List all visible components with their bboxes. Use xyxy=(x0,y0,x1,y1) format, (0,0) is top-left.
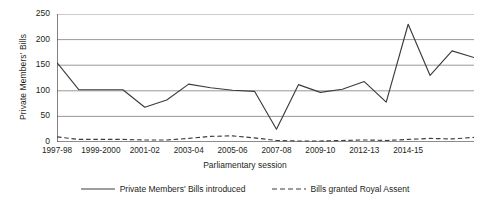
x-axis-tick-label: 1997-98 xyxy=(42,146,72,155)
y-axis-tick-label: 100 xyxy=(20,85,50,95)
x-axis-tick-label: 2001-02 xyxy=(130,146,160,155)
x-axis-tick-label: 2003-04 xyxy=(174,146,204,155)
x-axis-tick-label: 2009-10 xyxy=(305,146,335,155)
legend-item-introduced: Private Members' Bills introduced xyxy=(81,184,246,194)
legend-label-introduced: Private Members' Bills introduced xyxy=(120,184,246,194)
legend-item-royal-assent: Bills granted Royal Assent xyxy=(272,184,410,194)
legend-label-royal-assent: Bills granted Royal Assent xyxy=(311,184,410,194)
legend-dashed-line-icon xyxy=(272,185,306,193)
x-axis-title: Parliamentary session xyxy=(0,160,490,170)
chart-figure: Private Members' Bills 050100150200250 1… xyxy=(0,0,490,210)
plot-area xyxy=(57,14,474,142)
chart-canvas xyxy=(57,14,474,142)
chart-legend: Private Members' Bills introduced Bills … xyxy=(0,184,490,194)
x-axis-tick-label: 2014-15 xyxy=(393,146,423,155)
y-axis-title: Private Members' Bills xyxy=(18,2,28,152)
y-axis-tick-label: 200 xyxy=(20,34,50,44)
x-axis-tick-label: 2012-13 xyxy=(349,146,379,155)
x-axis-tick-label: 2005-06 xyxy=(218,146,248,155)
legend-solid-line-icon xyxy=(81,185,115,193)
x-axis-tick-label: 1999-2000 xyxy=(81,146,120,155)
x-axis-tick-label: 2007-08 xyxy=(261,146,291,155)
y-axis-tick-label: 50 xyxy=(20,110,50,120)
y-axis-tick-label: 250 xyxy=(20,8,50,18)
y-axis-tick-label: 150 xyxy=(20,59,50,69)
series-line-royal-assent xyxy=(57,136,474,141)
y-axis-tick-label: 0 xyxy=(20,136,50,146)
